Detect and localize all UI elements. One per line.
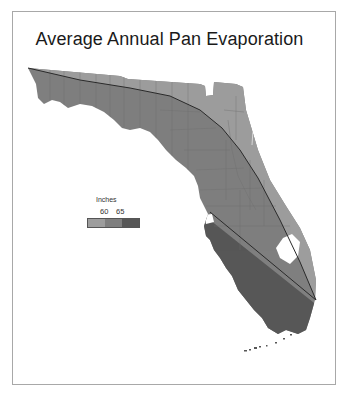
- legend-color-bar: [87, 218, 140, 228]
- legend-swatch-over-65: [122, 219, 139, 227]
- zone-60-65: [0, 0, 339, 395]
- florida-keys: [244, 334, 292, 352]
- legend-title: Inches: [96, 196, 117, 203]
- florida-map: [0, 0, 339, 395]
- legend-swatch-under-60: [88, 219, 105, 227]
- legend-tick-65: 65: [116, 207, 124, 216]
- legend-swatch-60-65: [105, 219, 122, 227]
- legend-tick-60: 60: [100, 207, 108, 216]
